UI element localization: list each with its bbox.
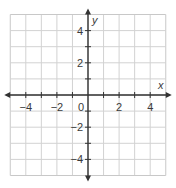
axes [4, 9, 172, 182]
y-tick-label: 4 [77, 25, 83, 37]
y-tick-label: −4 [70, 153, 83, 165]
x-axis-label: x [157, 79, 164, 91]
x-axis-left-arrow-icon [4, 92, 10, 98]
x-tick-label: −2 [51, 101, 64, 113]
x-tick-label: 2 [116, 101, 122, 113]
y-tick-label: 2 [77, 57, 83, 69]
y-axis-top-arrow-icon [85, 9, 91, 15]
y-tick-label: −2 [70, 121, 83, 133]
x-tick-label: 0 [78, 101, 84, 113]
y-axis-label: y [91, 14, 99, 26]
coordinate-plane: −4−202442−2−4 x y [0, 0, 176, 188]
y-axis-bottom-arrow-icon [85, 176, 91, 182]
x-tick-label: −4 [20, 101, 33, 113]
x-tick-label: 4 [147, 101, 153, 113]
x-axis-right-arrow-icon [166, 92, 172, 98]
